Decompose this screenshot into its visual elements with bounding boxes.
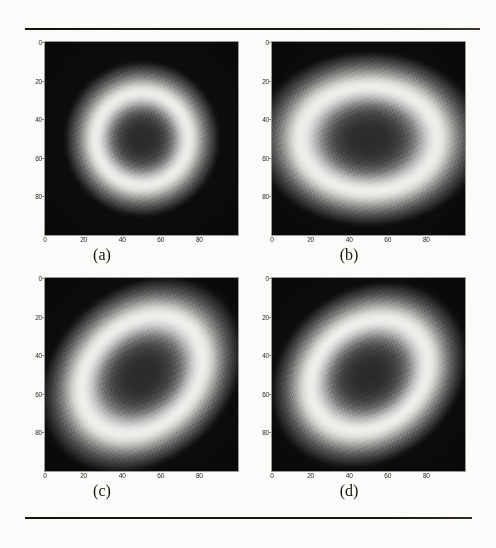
panel-c-y-tickmark-60 (41, 394, 44, 395)
panel-c-xtick-80: 80 (196, 472, 203, 479)
panel-a-y-axis: 0 20 40 60 80 (24, 41, 42, 234)
panel-b-xtick-0: 0 (270, 236, 273, 243)
panel-a-xtick-40: 40 (119, 236, 126, 243)
panel-b-caption: (b) (225, 246, 473, 264)
panel-d-y-tickmark-20 (268, 317, 271, 318)
panel-b-xtick-40: 40 (346, 236, 353, 243)
panel-c-y-tickmark-40 (41, 355, 44, 356)
panel-b-y-tickmark-60 (268, 158, 271, 159)
panel-b-y-tickmark-80 (268, 196, 271, 197)
panel-a-y-tickmark-80 (41, 196, 44, 197)
panel-a-y-tickmark-40 (41, 119, 44, 120)
panel-b: 0 20 40 60 80 0 20 40 60 80 (b) (248, 0, 496, 274)
panel-c-y-tickmark-0 (41, 278, 44, 279)
panel-b-y-tickmark-20 (268, 81, 271, 82)
panel-c-y-tickmark-20 (41, 317, 44, 318)
panel-d-y-tickmark-60 (268, 394, 271, 395)
panel-d-noise (272, 278, 465, 471)
panel-a-xtick-0: 0 (43, 236, 46, 243)
panel-c-x-axis: 0 20 40 60 80 (44, 472, 237, 482)
panel-a-x-axis: 0 20 40 60 80 (44, 236, 237, 246)
panel-d-y-tickmarks (268, 277, 271, 470)
panel-d-y-tickmark-0 (268, 278, 271, 279)
panel-d-image (271, 277, 466, 472)
panel-b-intensity-field (272, 42, 465, 235)
panel-a-image (44, 41, 239, 236)
panel-a-noise (45, 42, 238, 235)
panel-c-caption: (c) (0, 482, 226, 500)
panel-c-xtick-0: 0 (43, 472, 46, 479)
panel-c-intensity-field (45, 278, 238, 471)
panel-b-xtick-60: 60 (384, 236, 391, 243)
panel-b-y-tickmark-0 (268, 42, 271, 43)
panel-c-y-tickmark-80 (41, 432, 44, 433)
panel-a-y-tickmarks (41, 41, 44, 234)
panel-d-xtick-40: 40 (346, 472, 353, 479)
panel-d-xtick-20: 20 (307, 472, 314, 479)
panel-a-intensity-field (45, 42, 238, 235)
panel-b-x-axis: 0 20 40 60 80 (271, 236, 464, 246)
panel-c-y-axis: 0 20 40 60 80 (24, 277, 42, 470)
panel-b-y-tickmark-40 (268, 119, 271, 120)
panel-a-xtick-80: 80 (196, 236, 203, 243)
panel-d-y-axis: 0 20 40 60 80 (251, 277, 269, 470)
panel-c: 0 20 40 60 80 0 20 40 60 80 (c) (0, 274, 248, 548)
panel-c-xtick-40: 40 (119, 472, 126, 479)
panel-a: 0 20 40 60 80 0 20 40 60 80 (a) (0, 0, 248, 274)
panel-d-y-tickmark-80 (268, 432, 271, 433)
panel-b-image (271, 41, 466, 236)
panel-a-y-tickmark-60 (41, 158, 44, 159)
panel-d-xtick-80: 80 (423, 472, 430, 479)
panel-c-noise (45, 278, 238, 471)
panel-c-image (44, 277, 239, 472)
panel-a-xtick-20: 20 (80, 236, 87, 243)
panel-d-xtick-0: 0 (270, 472, 273, 479)
figure-page: 0 20 40 60 80 0 20 40 60 80 (a) (0, 0, 496, 548)
panel-c-y-tickmarks (41, 277, 44, 470)
panel-a-xtick-60: 60 (157, 236, 164, 243)
panel-a-y-tickmark-0 (41, 42, 44, 43)
panel-a-y-tickmark-20 (41, 81, 44, 82)
panel-d-x-axis: 0 20 40 60 80 (271, 472, 464, 482)
panel-a-caption: (a) (0, 246, 226, 264)
panel-b-y-axis: 0 20 40 60 80 (251, 41, 269, 234)
panel-c-xtick-60: 60 (157, 472, 164, 479)
panel-d-y-tickmark-40 (268, 355, 271, 356)
panel-b-noise (272, 42, 465, 235)
panel-d-intensity-field (272, 278, 465, 471)
panel-b-xtick-20: 20 (307, 236, 314, 243)
panel-d-caption: (d) (225, 482, 473, 500)
panel-c-xtick-20: 20 (80, 472, 87, 479)
panel-d-xtick-60: 60 (384, 472, 391, 479)
panel-b-xtick-80: 80 (423, 236, 430, 243)
panel-d: 0 20 40 60 80 0 20 40 60 80 (d) (248, 274, 496, 548)
panel-b-y-tickmarks (268, 41, 271, 234)
